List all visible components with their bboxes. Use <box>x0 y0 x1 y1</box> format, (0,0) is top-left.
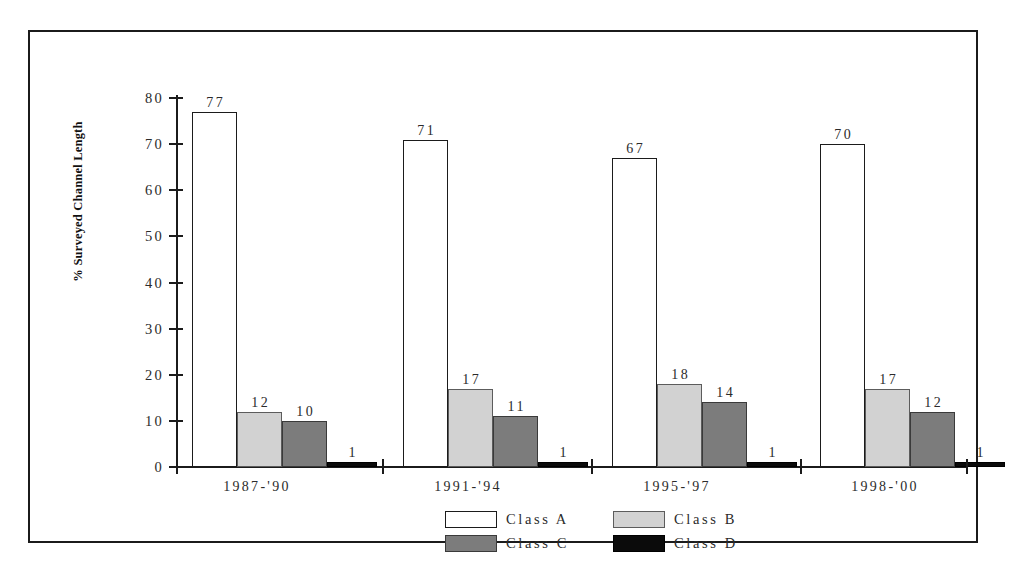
bar-class-d: 1 <box>327 462 377 467</box>
bar-group: 7117111 <box>403 98 603 467</box>
bar-value-label: 10 <box>294 405 315 419</box>
bar-class-a: 71 <box>403 140 448 467</box>
y-axis-tick-label: 30 <box>120 322 164 337</box>
y-axis-tick-label: 80 <box>120 91 164 106</box>
bar-value-label: 14 <box>714 386 735 400</box>
y-axis-tick-label-wrap: 70 <box>118 144 164 145</box>
y-axis-tick-label-wrap: 60 <box>118 190 164 191</box>
bar-class-d: 1 <box>747 462 797 467</box>
bar-class-c: 10 <box>282 421 327 467</box>
legend-swatch-class-b <box>613 511 665 528</box>
bar-class-b: 12 <box>237 412 282 467</box>
legend-item: Class D <box>613 534 738 553</box>
y-axis-tick-label: 20 <box>120 368 164 383</box>
bar-value-label: 1 <box>346 446 358 460</box>
legend-label: Class B <box>674 512 737 527</box>
x-axis-group-tick <box>966 459 968 474</box>
legend-item: Class B <box>613 510 737 529</box>
legend-item: Class C <box>445 534 569 553</box>
bar-class-a: 77 <box>192 112 237 467</box>
bar-value-label: 12 <box>249 396 270 410</box>
bar-value-label: 11 <box>505 400 526 414</box>
y-axis-tick-label-wrap: 0 <box>118 467 164 468</box>
bar-class-b: 18 <box>657 384 702 467</box>
legend-swatch-class-c <box>445 535 497 552</box>
bar-class-c: 12 <box>910 412 955 467</box>
figure-frame: % Surveyed Channel Length 80706050403020… <box>28 30 978 543</box>
y-axis-tick-label: 70 <box>120 137 164 152</box>
y-axis-tick-label-wrap: 50 <box>118 236 164 237</box>
bar-value-label: 1 <box>557 446 569 460</box>
bar-group: 7017121 <box>820 98 1009 467</box>
y-axis-tick-label: 40 <box>120 276 164 291</box>
bar-group: 7712101 <box>192 98 392 467</box>
x-axis-category-label: 1995-'97 <box>572 480 782 494</box>
bar-value-label: 77 <box>204 96 225 110</box>
bar-group: 6718141 <box>612 98 812 467</box>
y-axis-tick-label: 0 <box>120 460 164 475</box>
x-axis-group-tick <box>800 459 802 474</box>
bar-value-label: 71 <box>415 124 436 138</box>
bar-value-label: 17 <box>877 373 898 387</box>
bar-class-c: 11 <box>493 416 538 467</box>
y-axis-tick-label: 10 <box>120 414 164 429</box>
x-axis-group-tick <box>591 459 593 474</box>
x-axis-group-tick <box>382 459 384 474</box>
bar-class-b: 17 <box>448 389 493 467</box>
bar-value-label: 1 <box>766 446 778 460</box>
x-axis-group-tick <box>176 459 178 474</box>
legend-swatch-class-d <box>613 535 665 552</box>
legend-label: Class A <box>506 512 569 527</box>
y-axis-tick-label-wrap: 20 <box>118 375 164 376</box>
bar-value-label: 70 <box>832 128 853 142</box>
bar-class-a: 67 <box>612 158 657 467</box>
y-axis-tick-label: 60 <box>120 183 164 198</box>
legend-label: Class C <box>506 536 569 551</box>
legend-label: Class D <box>674 536 738 551</box>
y-axis-tick-label-wrap: 10 <box>118 421 164 422</box>
bar-value-label: 18 <box>669 368 690 382</box>
y-axis-title: % Surveyed Channel Length <box>71 92 86 312</box>
chart-legend: Class AClass BClass CClass D <box>445 510 755 558</box>
bar-class-b: 17 <box>865 389 910 467</box>
y-axis-tick-label-wrap: 40 <box>118 283 164 284</box>
y-axis-tick-label: 50 <box>120 229 164 244</box>
bar-value-label: 67 <box>624 142 645 156</box>
legend-item: Class A <box>445 510 569 529</box>
bar-value-label: 1 <box>974 446 986 460</box>
bar-class-d: 1 <box>538 462 588 467</box>
bar-value-label: 17 <box>460 373 481 387</box>
bar-value-label: 12 <box>922 396 943 410</box>
bar-class-a: 70 <box>820 144 865 467</box>
bar-class-d: 1 <box>955 462 1005 467</box>
legend-swatch-class-a <box>445 511 497 528</box>
x-axis-category-label: 1998-'00 <box>780 480 990 494</box>
y-axis-tick-label-wrap: 80 <box>118 98 164 99</box>
bar-class-c: 14 <box>702 402 747 467</box>
x-axis-category-label: 1987-'90 <box>152 480 362 494</box>
x-axis-category-label: 1991-'94 <box>363 480 573 494</box>
y-axis-tick-label-wrap: 30 <box>118 329 164 330</box>
